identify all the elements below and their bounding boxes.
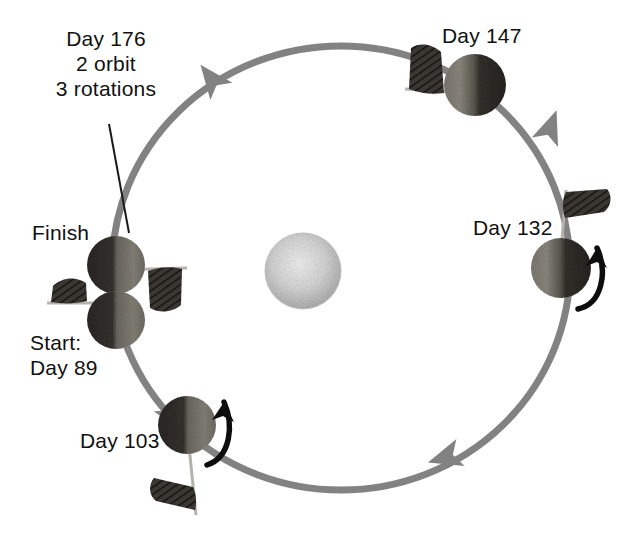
flag-day-147-banner	[409, 45, 444, 94]
planet-day-147	[444, 54, 506, 116]
label-start-day-89: Start: Day 89	[30, 330, 98, 380]
label-finish: Finish	[32, 220, 89, 245]
annotation-label-day-176: Day 176 2 orbit 3 rotations	[36, 26, 176, 101]
planet-finish	[87, 236, 145, 294]
label-day-147: Day 147	[442, 23, 522, 48]
planet-day-103	[158, 396, 216, 454]
flag-start-banner	[51, 278, 87, 303]
diagram-canvas: Day 176 2 orbit 3 rotations Finish Start…	[0, 0, 636, 552]
planet-day-132-group	[531, 189, 611, 309]
flag-finish-banner	[148, 267, 182, 311]
planet-day-103-group	[150, 396, 234, 515]
orbit-arrow-right	[532, 106, 570, 148]
label-day-132: Day 132	[473, 215, 553, 240]
flag-day-132-banner	[563, 189, 611, 218]
planet-day-132	[531, 238, 591, 298]
flag-day-103-banner	[150, 478, 196, 510]
planet-day-147-group	[405, 45, 506, 116]
central-star	[265, 233, 341, 309]
label-day-103: Day 103	[80, 428, 160, 453]
